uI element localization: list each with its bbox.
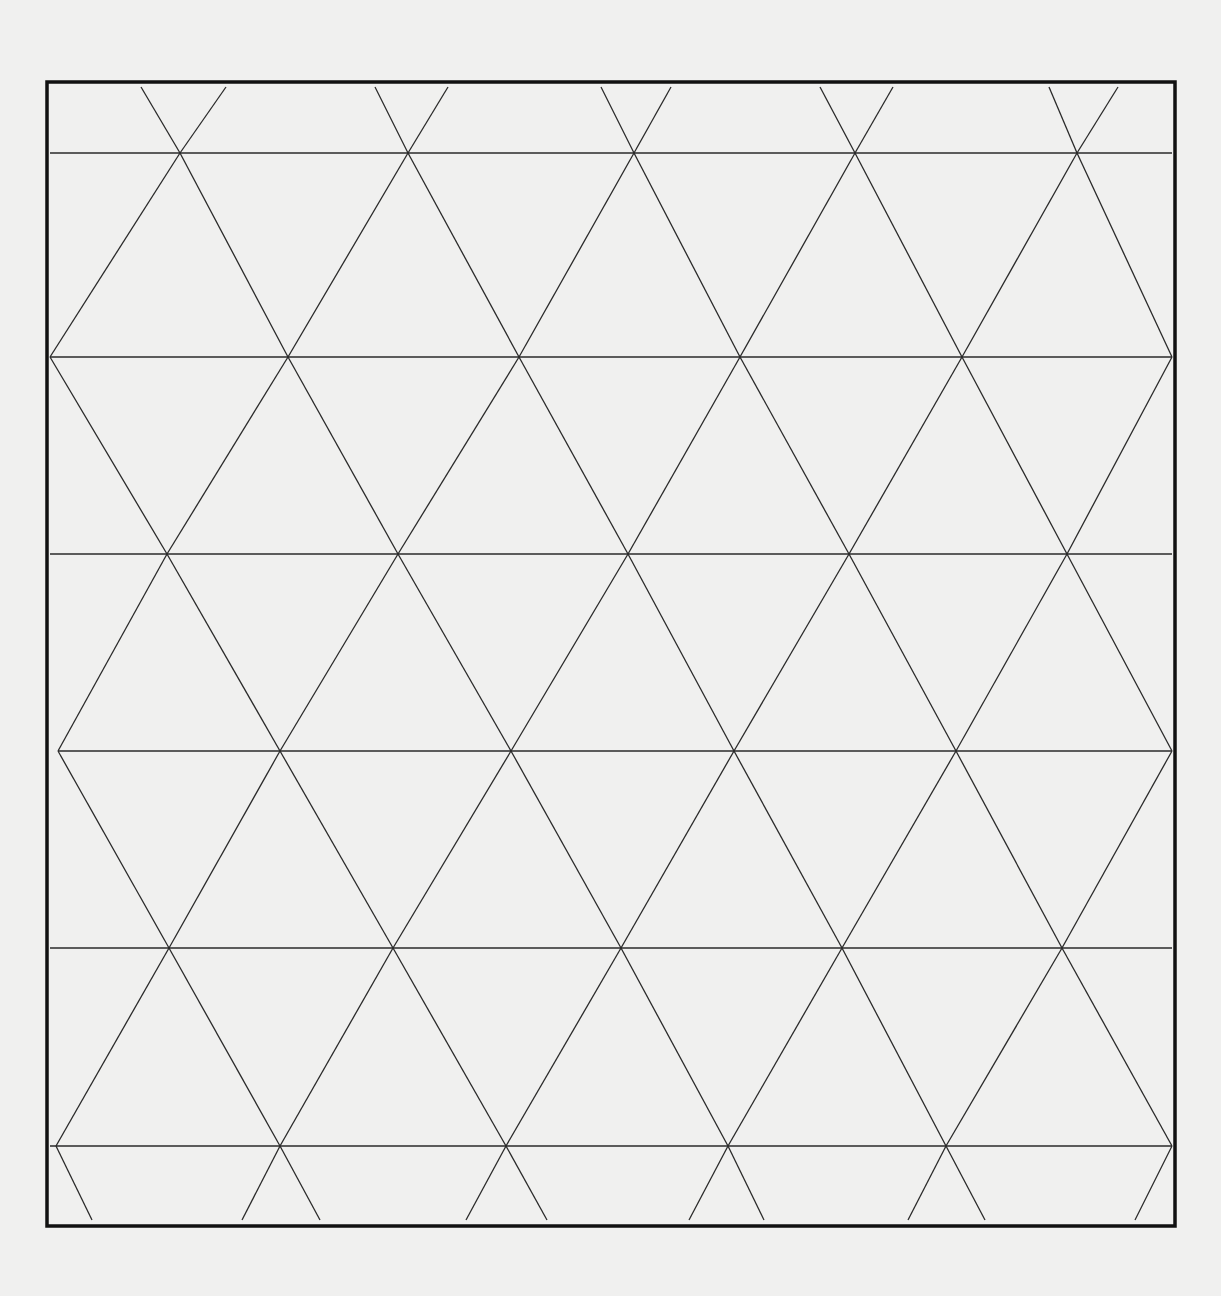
diagonal-grid-line xyxy=(1077,153,1172,357)
diagonal-grid-line xyxy=(1067,554,1172,751)
diagonal-grid-line xyxy=(1135,1146,1172,1220)
diagonal-grid-line xyxy=(56,948,169,1146)
diagonal-grid-line xyxy=(180,153,288,357)
diagonal-grid-line xyxy=(393,751,511,948)
diagonal-grid-line xyxy=(141,87,180,153)
triangular-grid xyxy=(0,0,1221,1296)
diagonal-grid-line xyxy=(169,751,280,948)
diagonal-grid-line xyxy=(962,357,1067,554)
diagonal-grid-line xyxy=(728,948,842,1146)
diagonal-grid-line xyxy=(519,153,634,357)
diagonal-grid-line xyxy=(398,357,519,554)
diagonal-grid-line xyxy=(740,153,855,357)
diagonal-grid-line xyxy=(393,948,506,1146)
diagonal-grid-line xyxy=(375,87,408,153)
diagonal-grid-line xyxy=(734,554,849,751)
diagonal-grid-line xyxy=(50,153,180,357)
diagonal-grid-line xyxy=(511,554,628,751)
diagonal-grid-line xyxy=(511,751,621,948)
grid-lines xyxy=(50,87,1172,1220)
diagonal-grid-line xyxy=(58,751,169,948)
diagonal-grid-line xyxy=(956,751,1062,948)
diagonal-grid-line xyxy=(621,948,728,1146)
diagonal-grid-line xyxy=(842,948,946,1146)
diagonal-grid-line xyxy=(288,357,398,554)
diagonal-grid-line xyxy=(849,357,962,554)
diagonal-grid-line xyxy=(634,87,671,153)
page-frame xyxy=(47,82,1175,1226)
diagonal-grid-line xyxy=(466,1146,506,1220)
diagonal-grid-line xyxy=(849,554,956,751)
diagonal-grid-line xyxy=(280,948,393,1146)
diagonal-grid-line xyxy=(1062,948,1172,1146)
diagonal-grid-line xyxy=(167,357,288,554)
diagonal-grid-line xyxy=(242,1146,280,1220)
diagonal-grid-line xyxy=(628,357,740,554)
diagonal-grid-line xyxy=(734,751,842,948)
diagonal-grid-line xyxy=(398,554,511,751)
diagonal-grid-line xyxy=(908,1146,946,1220)
diagonal-grid-line xyxy=(689,1146,728,1220)
diagonal-grid-line xyxy=(280,1146,320,1220)
diagonal-grid-line xyxy=(962,153,1077,357)
diagonal-grid-line xyxy=(740,357,849,554)
diagonal-grid-line xyxy=(408,153,519,357)
diagonal-grid-line xyxy=(634,153,740,357)
diagonal-grid-line xyxy=(180,87,226,153)
diagonal-grid-line xyxy=(58,554,167,751)
diagonal-grid-line xyxy=(855,153,962,357)
diagonal-grid-line xyxy=(1067,357,1172,554)
diagonal-grid-line xyxy=(842,751,956,948)
diagonal-grid-line xyxy=(1049,87,1077,153)
diagonal-grid-line xyxy=(728,1146,764,1220)
diagonal-grid-line xyxy=(167,554,280,751)
diagonal-grid-line xyxy=(280,554,398,751)
diagonal-grid-line xyxy=(50,357,167,554)
diagonal-grid-line xyxy=(408,87,448,153)
grid-paper-sheet: Triangular grid paper xyxy=(0,0,1221,1296)
diagonal-grid-line xyxy=(519,357,628,554)
diagonal-grid-line xyxy=(506,948,621,1146)
diagonal-grid-line xyxy=(855,87,893,153)
diagonal-grid-line xyxy=(288,153,408,357)
diagonal-grid-line xyxy=(56,1146,92,1220)
diagonal-grid-line xyxy=(1077,87,1118,153)
diagonal-grid-line xyxy=(956,554,1067,751)
diagonal-grid-line xyxy=(280,751,393,948)
diagonal-grid-line xyxy=(601,87,634,153)
diagonal-grid-line xyxy=(506,1146,547,1220)
diagonal-grid-line xyxy=(946,948,1062,1146)
diagonal-grid-line xyxy=(820,87,855,153)
diagonal-grid-line xyxy=(1062,751,1172,948)
diagonal-grid-line xyxy=(946,1146,985,1220)
diagonal-grid-line xyxy=(169,948,280,1146)
diagonal-grid-line xyxy=(621,751,734,948)
diagonal-grid-line xyxy=(628,554,734,751)
